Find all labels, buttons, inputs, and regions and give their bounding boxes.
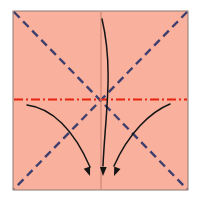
fold-diagram-svg bbox=[0, 0, 202, 200]
origami-diagram bbox=[0, 0, 202, 200]
